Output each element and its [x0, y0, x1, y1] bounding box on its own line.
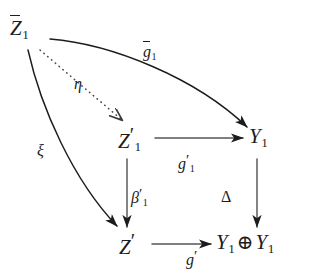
- node-z-bar-1-subscript: 1: [22, 27, 29, 42]
- edge-label-beta-prime-1: β′1: [131, 186, 148, 208]
- oplus-icon: ⊕: [235, 231, 256, 253]
- edge-label-gprime-prime: ′: [194, 247, 197, 264]
- edge-label-beta-prime-1-subscript: 1: [142, 197, 148, 208]
- node-z-prime-1: Z′1: [118, 126, 141, 154]
- node-y-1: Y1: [249, 126, 268, 149]
- node-z-prime-1-base: Z: [118, 129, 130, 153]
- edge-label-delta-glyph: Δ: [221, 188, 231, 205]
- node-z-prime-base: Z: [119, 235, 131, 259]
- node-y1-oplus-y1-left-base: Y: [216, 230, 228, 254]
- arrow-xi: [28, 50, 117, 226]
- edge-label-eta-glyph: η: [74, 75, 82, 92]
- node-y1-oplus-y1: Y1⊕Y1: [216, 232, 274, 255]
- edge-label-gprime1-base: g: [178, 155, 186, 172]
- node-z-bar-1-base: Z: [10, 18, 22, 39]
- node-z-bar-1: Z1: [10, 18, 29, 41]
- edge-label-eta: η: [74, 76, 82, 92]
- node-z-prime-prime: ′: [131, 230, 135, 252]
- edge-label-gprime: g′: [186, 248, 197, 268]
- edge-label-beta-prime-1-base: β: [131, 189, 139, 206]
- edge-label-xi-glyph: ξ: [37, 142, 44, 159]
- node-y-1-base: Y: [249, 124, 261, 148]
- node-z-prime: Z′: [119, 232, 135, 258]
- edge-label-gbar1-subscript: 1: [151, 51, 157, 62]
- edge-label-xi: ξ: [37, 143, 44, 159]
- edge-label-gprime1-subscript: 1: [189, 163, 195, 174]
- commutative-diagram: Z1 Z′1 Y1 Z′ Y1⊕Y1 g1 η ξ g′1 β′1 Δ g′: [0, 0, 310, 273]
- edge-label-delta: Δ: [221, 189, 231, 205]
- edge-label-gprime-base: g: [186, 251, 194, 268]
- node-y1-oplus-y1-right-subscript: 1: [267, 241, 274, 256]
- edge-label-gbar1: g1: [143, 44, 157, 62]
- node-y1-oplus-y1-right-base: Y: [256, 230, 268, 254]
- node-z-prime-1-subscript: 1: [134, 139, 141, 154]
- node-y-1-subscript: 1: [261, 135, 268, 150]
- node-y1-oplus-y1-left-subscript: 1: [228, 241, 235, 256]
- edge-label-gprime1: g′1: [178, 152, 195, 174]
- edge-label-gbar1-base: g: [143, 44, 151, 60]
